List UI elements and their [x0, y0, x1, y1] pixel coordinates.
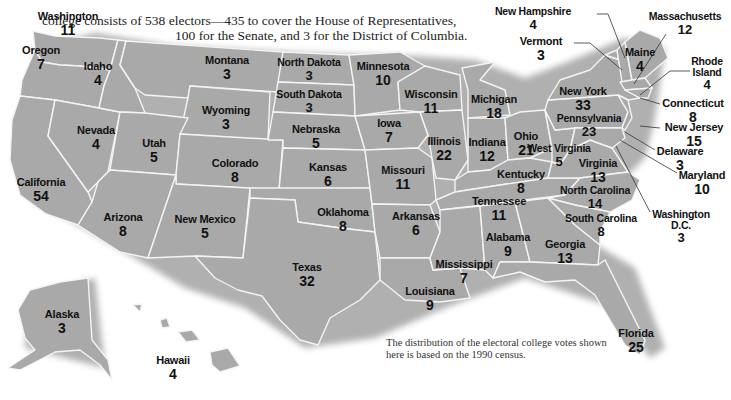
electoral-votes: 4	[156, 367, 190, 381]
label-arkansas: Arkansas6	[392, 211, 440, 237]
electoral-votes: 3	[202, 117, 250, 131]
electoral-votes: 3	[652, 231, 710, 244]
state-name: Washington	[38, 11, 99, 22]
electoral-votes: 10	[357, 73, 410, 87]
state-name: Indiana	[468, 137, 505, 148]
electoral-votes: 6	[309, 174, 347, 188]
state-name: California	[17, 177, 66, 188]
label-colorado: Colorado8	[212, 158, 259, 184]
electoral-votes: 11	[472, 208, 526, 222]
label-south-dakota: South Dakota3	[276, 89, 341, 114]
label-florida: Florida25	[618, 328, 653, 354]
electoral-votes: 12	[468, 149, 505, 163]
state-name: North Carolina	[560, 185, 630, 196]
electoral-votes: 3	[45, 321, 79, 335]
electoral-votes: 9	[405, 298, 455, 312]
label-maine: Maine4	[625, 47, 655, 73]
state-name: New Mexico	[175, 214, 236, 225]
electoral-votes: 4	[77, 137, 115, 151]
label-california: California54	[17, 177, 66, 203]
electoral-votes: 9	[486, 244, 530, 258]
label-virginia: Virginia13	[579, 158, 618, 184]
electoral-votes: 33	[559, 98, 607, 112]
state-name: Minnesota	[357, 61, 410, 72]
state-name: West Virginia	[527, 143, 591, 154]
state-name: Nevada	[77, 125, 115, 136]
electoral-votes: 8	[497, 181, 545, 195]
state-name: Colorado	[212, 158, 259, 169]
electoral-votes: 4	[691, 78, 723, 91]
label-oregon: Oregon7	[22, 45, 60, 71]
state-name: Vermont	[520, 36, 563, 47]
label-georgia: Georgia13	[545, 239, 585, 265]
label-wyoming: Wyoming3	[202, 105, 250, 131]
electoral-votes: 3	[277, 69, 341, 82]
state-name: Mississippi	[435, 259, 492, 270]
label-new-mexico: New Mexico5	[175, 214, 236, 240]
label-tennessee: Tennessee11	[472, 196, 526, 222]
label-washington-d-c: WashingtonD.C.3	[652, 209, 710, 244]
state-name: Texas	[292, 262, 321, 273]
label-new-york: New York33	[559, 86, 607, 112]
electoral-votes: 25	[618, 340, 653, 354]
electoral-votes: 3	[276, 101, 341, 114]
electoral-votes: 7	[22, 57, 60, 71]
label-nebraska: Nebraska5	[292, 124, 340, 150]
label-texas: Texas32	[292, 262, 321, 288]
electoral-votes: 7	[377, 130, 401, 144]
electoral-votes: 13	[545, 251, 585, 265]
state-name: Alaska	[45, 309, 79, 320]
state-name: South Dakota	[276, 89, 341, 100]
electoral-votes: 5	[292, 136, 340, 150]
label-indiana: Indiana12	[468, 137, 505, 163]
state-name: Alabama	[486, 232, 530, 243]
state-name: Kansas	[309, 162, 347, 173]
label-mississippi: Mississippi7	[435, 259, 492, 285]
state-name: Tennessee	[472, 196, 526, 207]
label-minnesota: Minnesota10	[357, 61, 410, 87]
label-maryland: Maryland10	[679, 170, 726, 196]
label-michigan: Michigan18	[471, 94, 517, 120]
label-missouri: Missouri11	[381, 165, 425, 191]
label-alabama: Alabama9	[486, 232, 530, 258]
label-louisiana: Louisiana9	[405, 286, 455, 312]
label-pennsylvania: Pennsylvania23	[557, 113, 622, 138]
electoral-votes: 3	[205, 67, 249, 81]
label-idaho: Idaho4	[84, 61, 112, 87]
state-name: New York	[559, 86, 607, 97]
electoral-votes: 11	[381, 177, 425, 191]
electoral-votes: 32	[292, 274, 321, 288]
state-name: Idaho	[84, 61, 112, 72]
electoral-votes: 13	[579, 170, 618, 184]
electoral-votes: 6	[392, 223, 440, 237]
label-vermont: Vermont3	[520, 36, 563, 62]
state-name: South Carolina	[565, 213, 637, 224]
census-note: The distribution of the electoral colleg…	[386, 337, 616, 361]
electoral-votes: 3	[520, 48, 563, 62]
state-name: Utah	[142, 138, 166, 149]
label-illinois: Illinois22	[427, 136, 460, 162]
label-alaska: Alaska3	[45, 309, 79, 335]
intro-line-1: college consists of 538 electors—435 to …	[42, 13, 456, 28]
electoral-votes: 5	[175, 226, 236, 240]
electoral-votes: 7	[435, 271, 492, 285]
state-name: Arkansas	[392, 211, 440, 222]
state-name: Nebraska	[292, 124, 340, 135]
label-kansas: Kansas6	[309, 162, 347, 188]
label-north-dakota: North Dakota3	[277, 57, 341, 82]
state-name: New Jersey	[665, 122, 724, 133]
state-name: Missouri	[381, 165, 425, 176]
state-name: Wyoming	[202, 105, 250, 116]
label-montana: Montana3	[205, 55, 249, 81]
state-name: Iowa	[377, 118, 401, 129]
label-new-hampshire: New Hampshire4	[495, 6, 571, 31]
state-name: Louisiana	[405, 286, 455, 297]
state-name: Florida	[618, 328, 653, 339]
state-name: New Hampshire	[495, 6, 571, 17]
state-name: Rhode	[691, 56, 723, 67]
electoral-votes: 18	[471, 106, 517, 120]
label-oklahoma: Oklahoma8	[317, 207, 369, 233]
label-rhode-island: RhodeIsland4	[691, 56, 723, 91]
label-nevada: Nevada4	[77, 125, 115, 151]
label-iowa: Iowa7	[377, 118, 401, 144]
